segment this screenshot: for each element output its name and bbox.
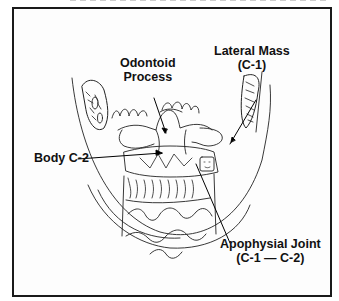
label-lateral-mass-line2: (C-1) xyxy=(214,58,290,72)
label-lateral-mass-line1: Lateral Mass xyxy=(214,44,290,58)
label-odontoid-process: Odontoid Process xyxy=(120,56,176,84)
label-odontoid-line1: Odontoid xyxy=(120,56,176,70)
label-apophysial-line1: Apophysial Joint xyxy=(220,237,321,251)
label-body-c2: Body C-2 xyxy=(34,151,89,165)
label-apophysial-line2: (C-1 — C-2) xyxy=(220,251,321,265)
label-odontoid-line2: Process xyxy=(120,70,176,84)
label-lateral-mass: Lateral Mass (C-1) xyxy=(214,44,290,72)
label-apophysial-joint: Apophysial Joint (C-1 — C-2) xyxy=(220,237,321,265)
